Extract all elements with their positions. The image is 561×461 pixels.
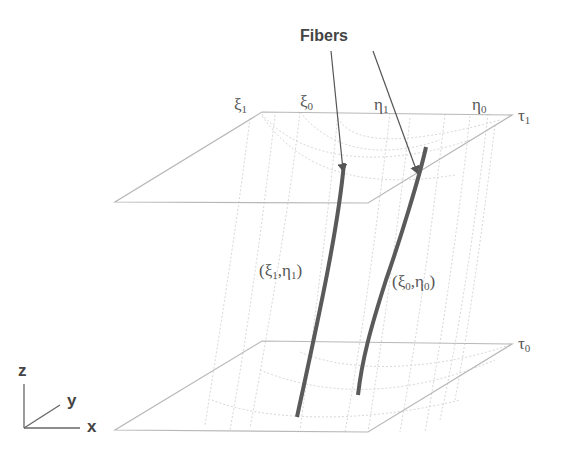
axis-x-label: x [87,418,96,435]
bottom-plane [115,341,512,432]
fiber-2 [358,147,426,395]
tick-xi0: ξ0 [300,93,313,112]
axis-z-label: z [18,362,27,379]
arrow-to-fiber-1 [331,51,343,170]
fiber-1-label: (ξ1,η1) [259,262,302,281]
tau1-label: τ1 [518,107,530,126]
tau0-label: τ0 [518,335,530,354]
fiber-diagram [0,0,561,461]
tick-xi1: ξ1 [234,96,247,115]
top-plane [115,112,512,203]
tick-eta1: η1 [374,96,388,115]
axis-y-label: y [67,392,76,409]
tick-eta0: η0 [472,96,486,115]
fibers-label: Fibers [300,28,348,44]
fiber-2-label: (ξ0,η0) [392,273,435,292]
fiber-1 [297,163,344,417]
